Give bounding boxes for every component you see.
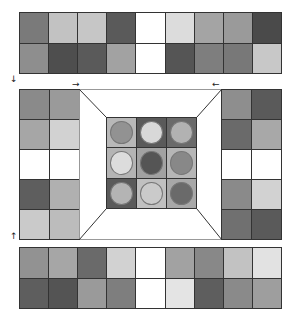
bottom-strip-cell [253,248,281,278]
disc-icon [110,151,133,174]
top-strip-cell [20,44,48,74]
right-column [221,89,282,240]
bottom-strip-cell [224,279,252,309]
disc-icon [170,182,193,205]
center-cell [107,179,136,208]
disc-icon [170,121,193,144]
bottom-strip-cell [107,279,135,309]
center-cell [167,179,196,208]
right-column-cell [252,150,281,179]
center-grid [106,117,197,209]
left-arrow-icon: ← [212,80,220,89]
bottom-strip-cell [253,279,281,309]
top-strip-cell [49,13,77,43]
center-cell [107,148,136,177]
right-column-cell [252,180,281,209]
left-column-cell [50,210,79,239]
top-strip-cell [49,44,77,74]
center-cell [107,118,136,147]
center-cell [167,118,196,147]
right-column-cell [222,120,251,149]
right-column-cell [222,210,251,239]
left-column-cell [20,210,49,239]
right-arrow-icon: → [72,80,80,89]
center-cell [137,148,166,177]
bottom-strip-cell [166,279,194,309]
top-strip-cell [195,44,223,74]
left-column-cell [50,90,79,119]
center-cell [137,179,166,208]
right-column-cell [252,90,281,119]
bottom-strip-cell [195,248,223,278]
center-cell [167,148,196,177]
left-column-cell [50,120,79,149]
left-column-cell [20,120,49,149]
disc-icon [110,121,133,144]
left-column-cell [20,180,49,209]
left-column-cell [50,150,79,179]
bottom-strip-cell [166,248,194,278]
bottom-strip-cell [136,248,164,278]
top-strip-cell [136,44,164,74]
disc-icon [110,182,133,205]
right-column-cell [252,120,281,149]
left-column [19,89,80,240]
left-column-cell [50,180,79,209]
right-column-cell [222,180,251,209]
top-strip-cell [166,13,194,43]
bottom-strip-cell [195,279,223,309]
bottom-strip-cell [49,248,77,278]
up-arrow-icon: ↑ [10,232,18,241]
disc-icon [140,121,163,144]
top-strip-cell [78,44,106,74]
disc-icon [140,182,163,205]
disc-icon [170,151,193,174]
bottom-strip [19,247,282,309]
bottom-strip-cell [78,279,106,309]
bottom-strip-cell [224,248,252,278]
top-strip-cell [253,13,281,43]
top-strip-cell [224,13,252,43]
bottom-strip-cell [107,248,135,278]
right-column-cell [222,150,251,179]
top-strip-cell [107,13,135,43]
top-strip-cell [78,13,106,43]
top-strip-cell [107,44,135,74]
top-strip [19,12,282,74]
left-column-cell [20,150,49,179]
bottom-strip-cell [20,248,48,278]
right-column-cell [252,210,281,239]
bottom-strip-cell [49,279,77,309]
top-strip-cell [224,44,252,74]
top-strip-cell [195,13,223,43]
bottom-strip-cell [136,279,164,309]
center-cell [137,118,166,147]
left-column-cell [20,90,49,119]
top-strip-cell [166,44,194,74]
top-strip-cell [20,13,48,43]
top-strip-cell [253,44,281,74]
bottom-strip-cell [78,248,106,278]
down-arrow-icon: ↓ [10,75,18,84]
top-strip-cell [136,13,164,43]
disc-icon [140,151,163,174]
right-column-cell [222,90,251,119]
bottom-strip-cell [20,279,48,309]
